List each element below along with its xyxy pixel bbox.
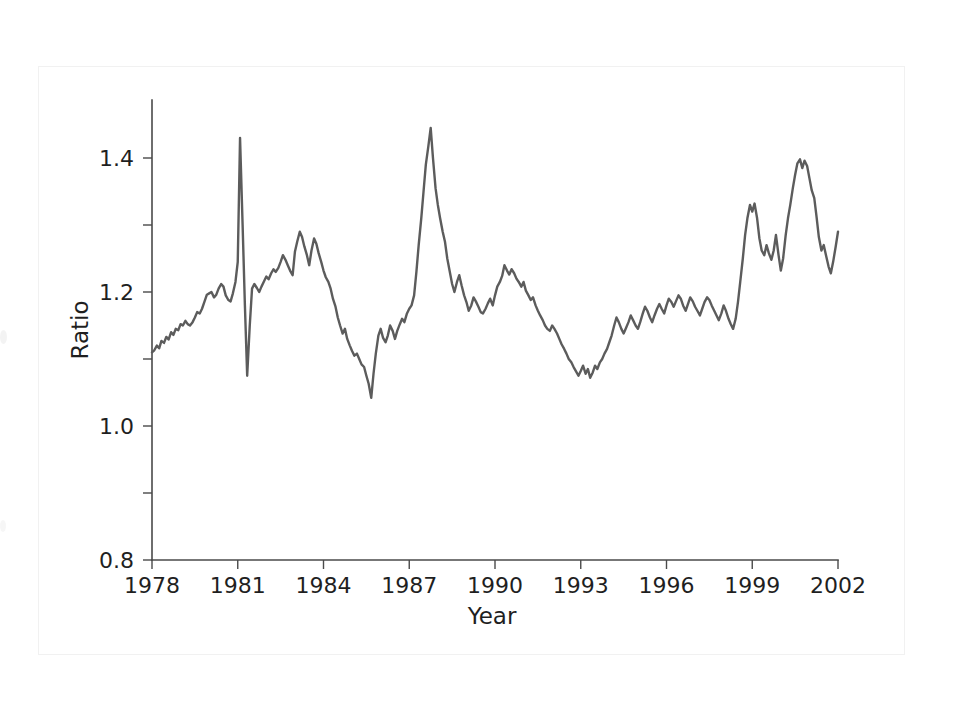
data-line-ratio (152, 128, 838, 398)
x-tick-label: 1996 (639, 573, 695, 598)
x-axis-ticks: 197819811984198719901993199619992002 (124, 560, 866, 598)
y-tick-label: 1.0 (99, 414, 134, 439)
y-axis-ticks: 0.81.01.21.4 (99, 146, 152, 573)
x-tick-label: 1999 (724, 573, 780, 598)
x-tick-label: 1981 (210, 573, 266, 598)
x-tick-label: 1984 (296, 573, 352, 598)
y-tick-label: 0.8 (99, 548, 134, 573)
x-tick-label: 1990 (467, 573, 523, 598)
data-series-group (152, 128, 838, 398)
x-axis-title: Year (467, 603, 517, 629)
axes (152, 100, 838, 560)
line-chart: 0.81.01.21.4 197819811984198719901993199… (0, 0, 953, 704)
y-tick-label: 1.2 (99, 280, 134, 305)
x-tick-label: 1978 (124, 573, 180, 598)
x-tick-label: 1993 (553, 573, 609, 598)
y-axis-title: Ratio (67, 300, 93, 359)
y-tick-label: 1.4 (99, 146, 134, 171)
x-tick-label: 1987 (381, 573, 437, 598)
figure-root: 0.81.01.21.4 197819811984198719901993199… (0, 0, 953, 704)
x-tick-label: 2002 (810, 573, 866, 598)
